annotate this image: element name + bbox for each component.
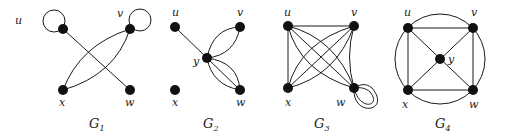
label-u: u [404, 6, 411, 19]
edge-u-y [175, 27, 207, 58]
vertex-x [403, 85, 413, 95]
label-v: v [117, 7, 124, 20]
vertex-w [125, 85, 135, 95]
label-v: v [237, 6, 244, 19]
vertex-w [349, 83, 359, 93]
label-x: x [59, 96, 66, 109]
vertex-u [283, 21, 293, 31]
label-v: v [351, 6, 358, 19]
label-x: x [402, 98, 409, 111]
vertex-v [468, 23, 478, 33]
vertex-x [283, 83, 293, 93]
vertex-y [202, 53, 212, 63]
label-v: v [471, 6, 478, 19]
graph-title-g3: G3 [314, 116, 329, 133]
vertex-w [468, 85, 478, 95]
label-x: x [285, 96, 292, 109]
vertex-v [235, 22, 245, 32]
label-w: w [125, 96, 135, 109]
graph-g1: u v x w G1 [15, 7, 151, 133]
graph-title-g1: G1 [89, 116, 104, 133]
graph-figure: u v x w G1 u v y x w G2 [0, 0, 507, 140]
graph-g2: u v y x w G2 [170, 6, 246, 133]
graph-g3: u v x w G3 [283, 6, 378, 133]
label-y: y [447, 53, 455, 66]
graph-g4: u v y x w G4 [395, 6, 485, 133]
label-x: x [172, 96, 179, 109]
vertex-y [435, 54, 445, 64]
label-u: u [15, 14, 22, 27]
label-u: u [284, 6, 291, 19]
graph-title-g4: G4 [435, 116, 450, 133]
vertex-x [58, 85, 68, 95]
vertex-v [125, 24, 135, 34]
label-y: y [192, 55, 200, 68]
label-w: w [236, 96, 246, 109]
vertex-x [170, 85, 180, 95]
label-u: u [172, 6, 179, 19]
vertex-u [170, 22, 180, 32]
graph-title-g2: G2 [203, 116, 218, 133]
label-w: w [469, 98, 479, 111]
vertex-v [349, 21, 359, 31]
edge-u-w [63, 29, 130, 90]
vertex-w [235, 85, 245, 95]
label-w: w [336, 96, 346, 109]
vertex-u [403, 23, 413, 33]
vertex-u [58, 24, 68, 34]
